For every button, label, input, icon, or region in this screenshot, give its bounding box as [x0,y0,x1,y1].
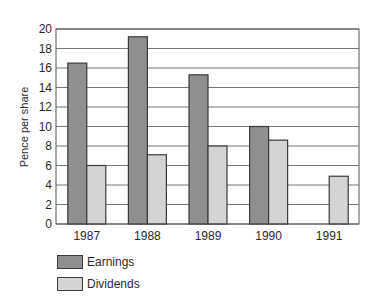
legend-label: Dividends [87,277,140,291]
bar-chart: 02468101214161820 19871988198919901991 P… [0,0,379,250]
bars [68,37,348,224]
y-tick-label: 12 [39,100,53,114]
bar-earnings-1988 [128,37,147,224]
y-tick-label: 16 [39,61,53,75]
dividends-swatch [57,277,83,291]
x-tick-label: 1991 [316,229,343,243]
legend-item-earnings: Earnings [57,252,140,272]
y-axis-ticks: 02468101214161820 [39,22,53,231]
y-tick-label: 4 [45,178,52,192]
legend: Earnings Dividends [57,252,140,296]
x-tick-label: 1987 [73,229,100,243]
y-tick-label: 18 [39,42,53,56]
x-tick-label: 1988 [134,229,161,243]
x-axis-ticks: 19871988198919901991 [73,229,342,243]
y-tick-label: 14 [39,81,53,95]
y-tick-label: 0 [45,217,52,231]
legend-item-dividends: Dividends [57,274,140,294]
y-tick-label: 6 [45,159,52,173]
bar-earnings-1990 [250,127,269,225]
x-tick-label: 1989 [195,229,222,243]
earnings-swatch [57,255,83,269]
bar-dividends-1987 [87,166,106,225]
bar-dividends-1990 [269,140,288,224]
y-axis-label: Pence per share [18,87,30,168]
x-tick-label: 1990 [255,229,282,243]
bar-earnings-1987 [68,63,87,224]
y-tick-label: 2 [45,198,52,212]
bar-dividends-1988 [147,155,166,224]
y-tick-label: 20 [39,22,53,36]
y-tick-label: 10 [39,120,53,134]
bar-dividends-1991 [329,176,348,224]
y-tick-label: 8 [45,139,52,153]
bar-dividends-1989 [208,146,227,224]
legend-label: Earnings [87,255,134,269]
bar-earnings-1989 [189,75,208,224]
